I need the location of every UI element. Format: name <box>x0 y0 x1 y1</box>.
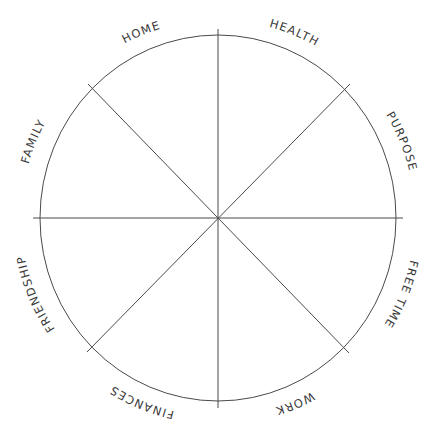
segment-label-family: FAMILY <box>18 117 49 165</box>
life-wheel-diagram: HOME HEALTH PURPOSE FREE TIME WORK FINAN… <box>0 0 437 436</box>
segment-label-home: HOME <box>120 18 163 46</box>
segment-label-finances: FINANCES <box>107 383 175 422</box>
segment-label-free-time: FREE TIME <box>381 259 421 331</box>
segment-label-purpose: PURPOSE <box>383 109 420 173</box>
segment-label-friendship: FRIENDSHIP <box>14 254 58 335</box>
segment-label-health: HEALTH <box>268 16 322 49</box>
segment-label-work: WORK <box>273 389 317 418</box>
